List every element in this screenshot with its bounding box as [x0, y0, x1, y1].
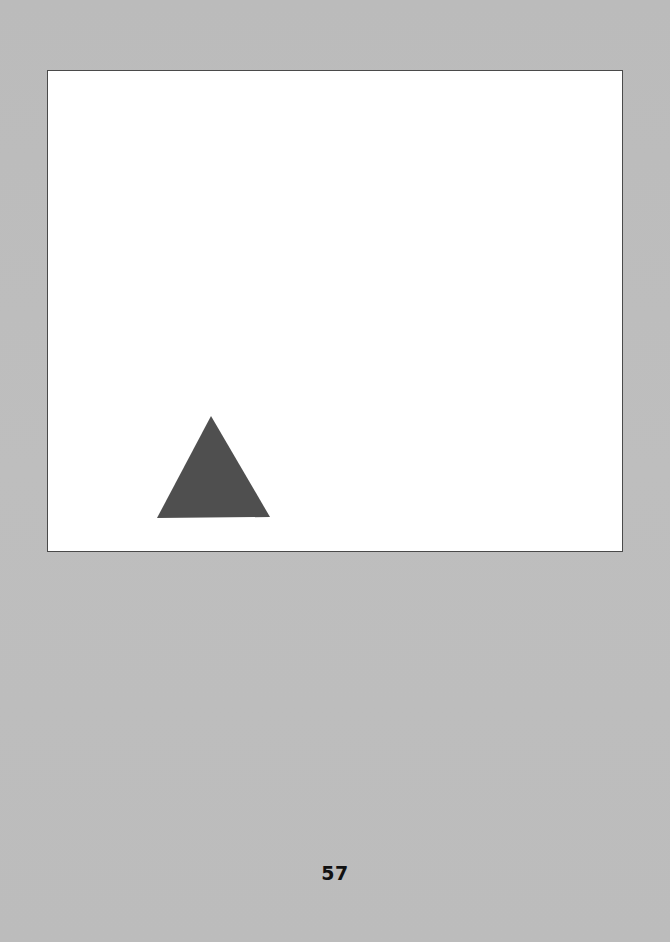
page-number: 57 [0, 862, 670, 884]
figure-frame [47, 70, 623, 552]
triangle-shape [48, 71, 622, 551]
triangle-icon [157, 416, 270, 518]
page: 57 [0, 0, 670, 942]
